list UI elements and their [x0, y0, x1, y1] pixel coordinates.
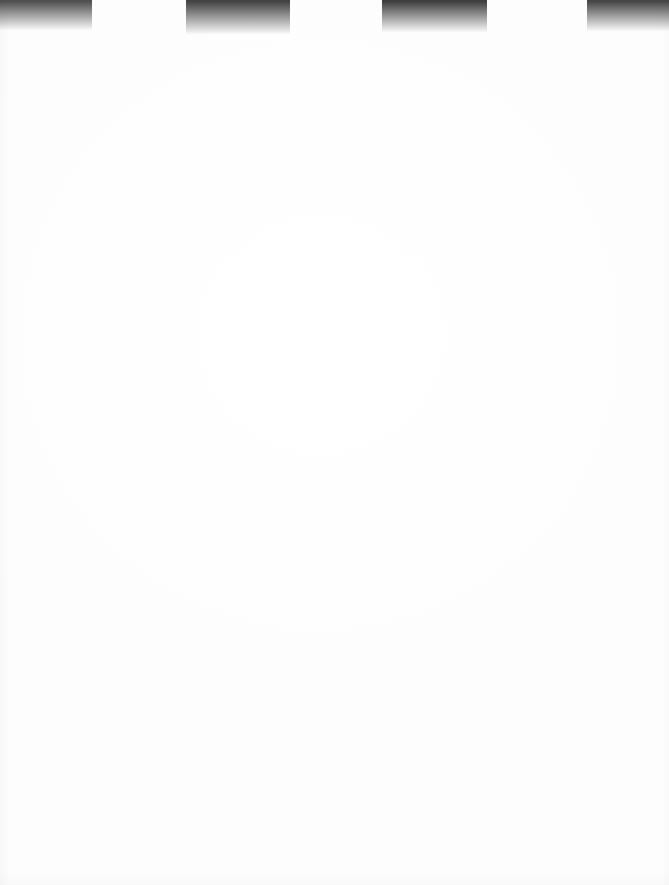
paper-surface [0, 0, 669, 885]
top-edge-band-1 [0, 0, 92, 31]
top-edge-band-4 [587, 0, 669, 32]
scanned-page [0, 0, 669, 885]
top-edge-band-2 [186, 0, 290, 35]
top-edge-band-3 [382, 0, 487, 33]
scan-vignette [0, 0, 669, 885]
top-edge-artifact-group [0, 0, 669, 60]
